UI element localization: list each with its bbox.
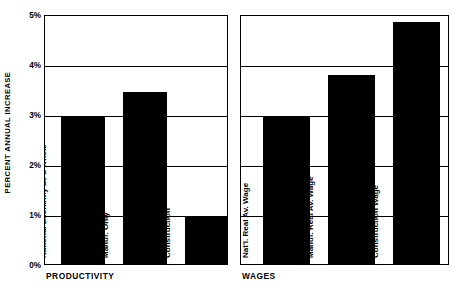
- y-tick-label: 4%: [29, 61, 41, 70]
- plot-area-productivity: National Economy as a WholeManuf. OnlyCo…: [45, 16, 227, 264]
- panel-wages: Nat'l. Real Av. WageManuf. Real Av. Wage…: [240, 15, 449, 265]
- panel-caption-wages: WAGES: [242, 271, 276, 281]
- bar: [393, 22, 440, 265]
- y-tick-label: 3%: [29, 111, 41, 120]
- y-tick-label: 1%: [29, 211, 41, 220]
- bar: [185, 217, 228, 265]
- bar-label: Manuf. Only: [100, 108, 112, 258]
- bar-label: Construction: [162, 108, 174, 258]
- bar-chart-figure: PERCENT ANNUAL INCREASE 5%4%3%2%1%0% Nat…: [0, 0, 453, 291]
- bar-label: Nat'l. Real Av. Wage: [240, 108, 252, 258]
- y-tick-label: 2%: [29, 161, 41, 170]
- bar: [328, 75, 375, 264]
- y-tick-label: 0%: [29, 261, 41, 270]
- panel-caption-productivity: PRODUCTIVITY: [46, 271, 114, 281]
- y-axis-title: PERCENT ANNUAL INCREASE: [0, 0, 16, 265]
- bar-label: National Economy as a Whole: [44, 108, 50, 258]
- bar-label: Construction Wage: [370, 108, 382, 258]
- bar: [123, 92, 167, 265]
- y-axis-title-label: PERCENT ANNUAL INCREASE: [4, 72, 13, 194]
- bar: [263, 117, 310, 265]
- bar: [61, 117, 105, 265]
- gridline: [45, 66, 227, 67]
- y-tick-label: 5%: [29, 11, 41, 20]
- y-axis-tick-labels: 5%4%3%2%1%0%: [16, 0, 44, 291]
- bar-label: Manuf. Real Av. Wage: [305, 108, 317, 258]
- plot-area-wages: Nat'l. Real Av. WageManuf. Real Av. Wage…: [241, 16, 448, 264]
- panel-productivity: National Economy as a WholeManuf. OnlyCo…: [44, 15, 228, 265]
